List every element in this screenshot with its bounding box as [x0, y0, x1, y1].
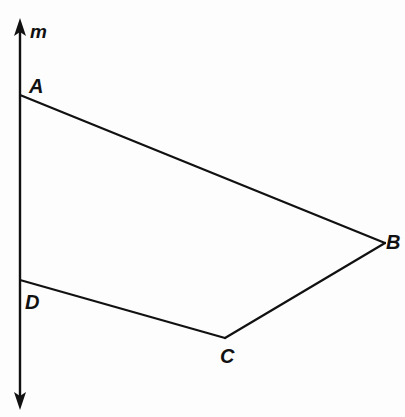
segment-bc	[225, 243, 385, 338]
line-m	[14, 18, 26, 410]
vertex-label-c: C	[220, 346, 234, 366]
segment-ab	[20, 95, 385, 243]
quadrilateral-abcd	[20, 95, 385, 338]
vertex-label-a: A	[29, 76, 43, 96]
segment-cd	[20, 280, 225, 338]
geometry-figure: m A B C D	[0, 0, 405, 417]
line-label-m: m	[30, 22, 47, 41]
vertex-label-d: D	[25, 292, 39, 312]
geometry-canvas	[0, 0, 405, 417]
vertex-label-b: B	[386, 232, 400, 252]
